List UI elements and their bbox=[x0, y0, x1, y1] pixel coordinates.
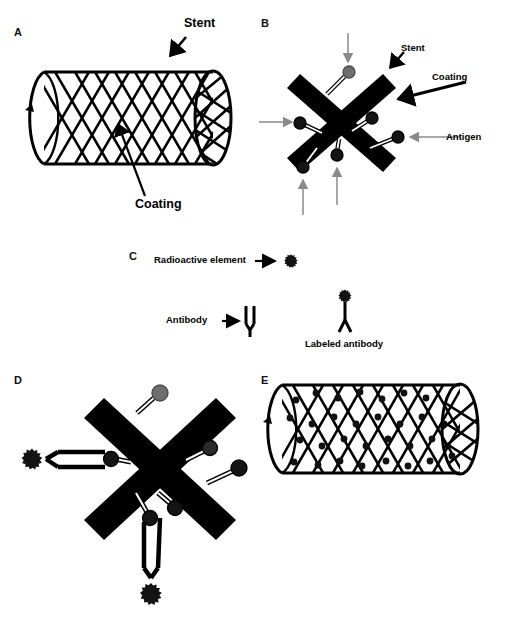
panel-a-stent-cylinder bbox=[25, 37, 256, 196]
panel-a-stent-arrow bbox=[170, 37, 186, 56]
panel-c-antibody-label: Antibody bbox=[166, 314, 207, 325]
panel-letter-e: E bbox=[261, 374, 268, 386]
panel-letter-a: A bbox=[14, 26, 22, 38]
panel-letter-d: D bbox=[14, 374, 22, 386]
figure-panel-composite: A Stent Coating B Stent Coating Antigen … bbox=[0, 0, 514, 633]
panel-a-stent-label: Stent bbox=[184, 16, 215, 30]
panel-c-radioactive-label: Radioactive element bbox=[154, 254, 246, 265]
panel-d-binding-cross bbox=[22, 385, 247, 605]
panel-e-antigen-dots bbox=[287, 389, 456, 470]
panel-b-strut-cross bbox=[259, 33, 466, 215]
panel-letter-b: B bbox=[261, 17, 269, 29]
antibody-icon bbox=[246, 306, 254, 337]
panel-c-legend bbox=[222, 254, 351, 337]
panel-d-labeled-antibody-bottom bbox=[140, 518, 162, 605]
panel-d-labeled-antibody-left bbox=[22, 449, 105, 470]
labeled-antibody-icon bbox=[338, 289, 351, 332]
panel-c-labeled-antibody-label: Labeled antibody bbox=[305, 338, 383, 349]
panel-b-stent-label: Stent bbox=[401, 42, 425, 53]
figure-artwork bbox=[0, 0, 514, 633]
panel-e-stent-cylinder bbox=[263, 373, 490, 485]
panel-b-stent-arrow bbox=[390, 52, 404, 68]
panel-letter-c: C bbox=[129, 250, 137, 262]
panel-a-coating-label: Coating bbox=[135, 197, 182, 211]
panel-b-antigen-label: Antigen bbox=[446, 131, 481, 142]
panel-b-coating-label: Coating bbox=[432, 71, 467, 82]
radioactive-element-icon bbox=[284, 254, 298, 268]
panel-b-coating-arrow bbox=[398, 82, 466, 99]
